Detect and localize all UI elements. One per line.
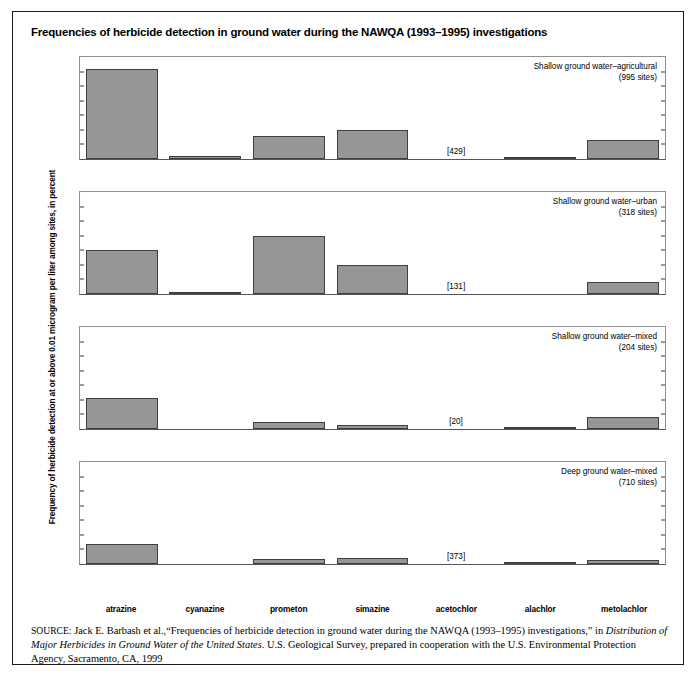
- no-data-annotation-acetochlor: [373]: [447, 552, 465, 561]
- plot-area-1: 05101520253035Shallow ground water–agric…: [79, 56, 666, 160]
- bar-metolachlor: [587, 140, 659, 159]
- bar-prometon: [253, 136, 325, 159]
- plot-area-4: 05101520253035Deep ground water–mixed(71…: [79, 461, 666, 565]
- bar-simazine: [337, 265, 409, 294]
- x-axis-label-prometon: prometon: [270, 604, 307, 614]
- plot-area-2: 05101520253035Shallow ground water–urban…: [79, 191, 666, 295]
- plot-area-3: 05101520253035Shallow ground water–mixed…: [79, 326, 666, 430]
- y-axis-label: Frequency of herbicide detection at or a…: [47, 112, 57, 582]
- bar-alachlor: [504, 427, 576, 429]
- bar-atrazine: [86, 250, 158, 294]
- x-axis-label-acetochlor: acetochlor: [436, 604, 477, 614]
- bar-simazine: [337, 558, 409, 564]
- bar-atrazine: [86, 544, 158, 564]
- x-axis-label-cyanazine: cyanazine: [185, 604, 224, 614]
- bars-layer: [429]: [80, 57, 665, 159]
- chart-panel-2: 05101520253035Shallow ground water–urban…: [68, 191, 666, 295]
- x-axis-label-simazine: simazine: [355, 604, 389, 614]
- x-axis-label-atrazine: atrazine: [106, 604, 137, 614]
- bar-alachlor: [504, 157, 576, 159]
- source-text-1: Jack E. Barbash et al.,“Frequencies of h…: [72, 625, 606, 636]
- page-title: Frequencies of herbicide detection in gr…: [31, 26, 671, 38]
- x-axis-label-alachlor: alachlor: [525, 604, 556, 614]
- bar-metolachlor: [587, 560, 659, 564]
- bar-metolachlor: [587, 417, 659, 429]
- bar-prometon: [253, 422, 325, 429]
- bars-layer: [131]: [80, 192, 665, 294]
- bar-prometon: [253, 236, 325, 294]
- bar-atrazine: [86, 69, 158, 159]
- bar-prometon: [253, 559, 325, 564]
- bar-atrazine: [86, 398, 158, 429]
- figure-frame: Frequencies of herbicide detection in gr…: [12, 11, 684, 665]
- bars-layer: [20]: [80, 327, 665, 429]
- source-note: SOURCE: Jack E. Barbash et al.,“Frequenc…: [31, 624, 671, 665]
- bar-alachlor: [504, 562, 576, 564]
- x-axis-label-metolachlor: metolachlor: [601, 604, 647, 614]
- chart-panel-3: 05101520253035Shallow ground water–mixed…: [68, 326, 666, 430]
- chart-panel-1: 05101520253035Shallow ground water–agric…: [68, 56, 666, 160]
- chart-panel-4: 05101520253035Deep ground water–mixed(71…: [68, 461, 666, 565]
- bar-simazine: [337, 130, 409, 159]
- bar-cyanazine: [169, 292, 241, 294]
- bar-cyanazine: [169, 156, 241, 159]
- no-data-annotation-acetochlor: [20]: [449, 417, 463, 426]
- x-axis-labels: atrazinecyanazineprometonsimazineacetoch…: [79, 604, 666, 618]
- no-data-annotation-acetochlor: [429]: [447, 147, 465, 156]
- bar-metolachlor: [587, 282, 659, 294]
- bar-simazine: [337, 425, 409, 429]
- bars-layer: [373]: [80, 462, 665, 564]
- no-data-annotation-acetochlor: [131]: [447, 282, 465, 291]
- source-label: SOURCE:: [31, 625, 72, 636]
